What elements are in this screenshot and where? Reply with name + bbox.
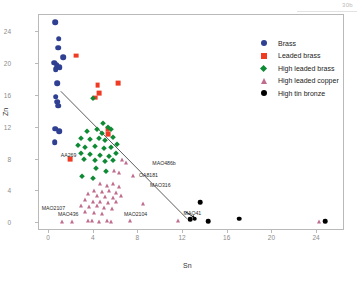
legend-item[interactable]: Leaded brass [254,50,339,63]
y-tick-label: 8 [0,155,11,162]
y-tick-label: 0 [0,219,11,226]
x-tick-label: 8 [127,234,147,241]
legend-label: Leaded brass [278,52,320,59]
y-tick-label: 20 [0,60,11,67]
figure-scatter-plot: 30b Zn Sn 04812162024 04812162024 AA269M… [0,0,357,284]
legend-label: Brass [278,40,296,47]
chart-legend: BrassLeaded brassHigh leaded brassHigh l… [254,37,339,100]
figure-corner-tag: 30b [342,2,353,8]
x-tick-label: 0 [38,234,58,241]
y-tick-label: 24 [0,28,11,35]
legend-item[interactable]: High leaded copper [254,75,339,88]
legend-marker-diamond-icon [254,66,274,71]
x-tick-label: 4 [83,234,103,241]
legend-item[interactable]: High leaded brass [254,62,339,75]
y-axis-label: Zn [2,108,9,116]
y-tick-label: 16 [0,92,11,99]
plot-inner: AA269MAO486bOA8181MAO316MAO2107MAO436MAO… [39,15,343,229]
legend-item[interactable]: Brass [254,37,339,50]
legend-marker-square-icon [254,53,274,59]
y-tick-label: 4 [0,187,11,194]
legend-label: High tin bronze [278,90,325,97]
plot-area: AA269MAO486bOA8181MAO316MAO2107MAO436MAO… [38,14,344,230]
legend-item[interactable]: High tin bronze [254,87,339,100]
legend-label: High leaded brass [278,65,334,72]
legend-marker-circle-icon [254,90,274,96]
y-tick-label: 12 [0,123,11,130]
x-tick-label: 12 [172,234,192,241]
legend-marker-triangle-icon [254,78,274,84]
x-tick-label: 16 [217,234,237,241]
legend-label: High leaded copper [278,77,339,84]
legend-marker-circle-icon [254,40,274,46]
x-tick-label: 24 [306,234,326,241]
x-axis-label: Sn [183,262,192,269]
x-tick-label: 20 [261,234,281,241]
corner-rule [297,11,357,12]
